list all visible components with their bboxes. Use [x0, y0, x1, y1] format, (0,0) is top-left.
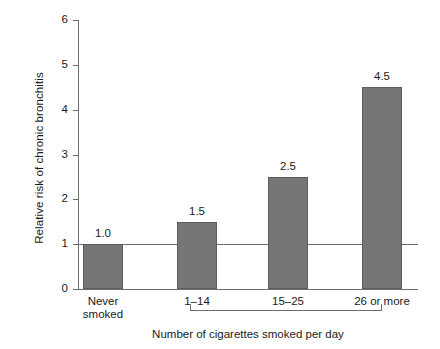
- y-tick-label-6: 6: [48, 14, 68, 26]
- y-tick-label-3: 3: [48, 149, 68, 161]
- smoker-group-bracket-tick-right: [381, 304, 382, 311]
- y-tick-label-1: 1: [48, 238, 68, 250]
- smoker-group-bracket-tick-left: [190, 304, 191, 311]
- y-tick-mark-3: [73, 155, 78, 156]
- bar-15-25[interactable]: [268, 177, 308, 289]
- x-category-label-line-1: Never: [58, 295, 148, 308]
- y-tick-mark-0: [73, 289, 78, 290]
- x-axis-line: [78, 289, 418, 290]
- y-tick-mark-2: [73, 199, 78, 200]
- y-tick-label-0: 0: [48, 283, 68, 295]
- y-tick-label-2: 2: [48, 193, 68, 205]
- y-tick-label-5: 5: [48, 59, 68, 71]
- x-axis-title: Number of cigarettes smoked per day: [78, 328, 418, 340]
- bar-value-never-smoked: 1.0: [73, 228, 133, 240]
- x-category-label-line-2: smoked: [58, 308, 148, 321]
- smoker-group-bracket: [190, 310, 382, 311]
- bar-value-1-14: 1.5: [167, 206, 227, 218]
- bar-26-or-more[interactable]: [362, 87, 402, 289]
- bar-value-15-25: 2.5: [258, 161, 318, 173]
- bar-chart: Relative risk of chronic bronchitis 6 5 …: [0, 0, 440, 349]
- bar-1-14[interactable]: [177, 222, 217, 289]
- bar-value-26-or-more: 4.5: [352, 71, 412, 83]
- y-tick-mark-6: [73, 20, 78, 21]
- x-category-label-15-25: 15–25: [243, 295, 333, 308]
- x-category-label-1-14: 1–14: [152, 295, 242, 308]
- y-axis-line: [78, 20, 79, 290]
- x-category-label-never-smoked: Never smoked: [58, 295, 148, 321]
- y-tick-mark-4: [73, 110, 78, 111]
- y-axis-title: Relative risk of chronic bronchitis: [33, 33, 45, 283]
- y-tick-mark-5: [73, 65, 78, 66]
- y-tick-label-4: 4: [48, 104, 68, 116]
- bar-never-smoked[interactable]: [83, 244, 123, 289]
